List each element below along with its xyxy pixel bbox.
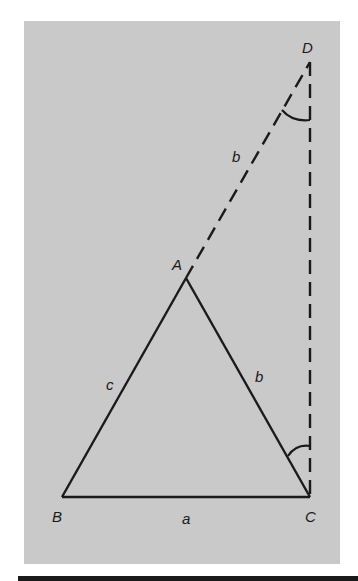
side-b [186,278,310,497]
angle-mark-D [282,110,310,120]
extension-AD [186,62,310,278]
label-side-b-lower: b [255,368,263,385]
side-c [62,278,186,497]
label-D: D [302,39,313,56]
label-A: A [171,256,182,273]
label-C: C [305,508,316,525]
bottom-rule [18,576,358,581]
angle-mark-C [288,446,310,456]
label-side-a: a [182,510,190,527]
label-side-c: c [106,376,114,393]
triangle-diagram: D A B C a b c b [0,0,358,581]
label-B: B [52,508,62,525]
label-side-b-upper: b [232,148,240,165]
